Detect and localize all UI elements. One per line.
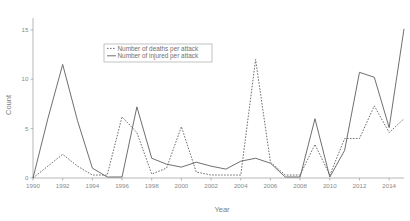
- plot-area: 051015 199019921994199619982000200220042…: [0, 0, 410, 221]
- y-axis: 051015: [22, 18, 33, 181]
- x-tick-label: 2014: [382, 182, 396, 189]
- y-tick-label: 5: [25, 125, 29, 132]
- data-series-group: [33, 29, 404, 178]
- x-tick-label: 2010: [323, 182, 337, 189]
- x-axis-title: Year: [214, 205, 230, 214]
- series-line-deaths: [33, 60, 404, 179]
- y-tick-label: 15: [22, 26, 29, 33]
- x-tick-label: 1994: [85, 182, 99, 189]
- y-axis-title: Count: [4, 94, 13, 115]
- x-tick-label: 2008: [293, 182, 307, 189]
- x-axis: 1990199219941996199820002002200420062008…: [26, 178, 404, 189]
- line-chart: 051015 199019921994199619982000200220042…: [0, 0, 410, 221]
- x-tick-label: 2006: [264, 182, 278, 189]
- x-tick-label: 1990: [26, 182, 40, 189]
- x-tick-label: 2012: [353, 182, 367, 189]
- y-tick-label: 10: [22, 75, 29, 82]
- x-tick-label: 2004: [234, 182, 248, 189]
- x-tick-label: 1996: [115, 182, 129, 189]
- x-tick-label: 2002: [204, 182, 218, 189]
- y-tick-label: 0: [25, 174, 29, 181]
- legend-label: Number of injured per attack: [118, 52, 199, 60]
- x-tick-label: 1992: [56, 182, 70, 189]
- x-tick-label: 1998: [145, 182, 159, 189]
- x-tick-label: 2000: [175, 182, 189, 189]
- chart-legend: Number of deaths per attackNumber of inj…: [104, 44, 212, 62]
- series-line-injured: [33, 29, 404, 178]
